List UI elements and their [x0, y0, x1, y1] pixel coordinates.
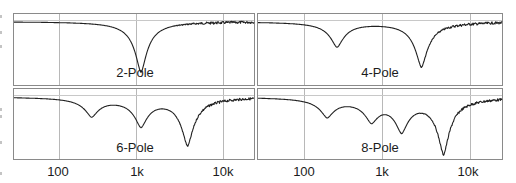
x-axis-ticks-left: 100 1k 10k [47, 164, 234, 179]
x-tick-1k: 1k [130, 164, 144, 179]
x-axis-ticks-right: 100 1k 10k [293, 164, 479, 179]
phaser-response-chart: 2-Pole 4-Pole 6-Pole 8-Pole 100 1k 10k 1… [0, 0, 516, 183]
cropped-axis-fragments [0, 15, 2, 175]
x-tick-100: 100 [293, 164, 315, 179]
panel-label-4-pole: 4-Pole [361, 65, 399, 80]
x-tick-1k: 1k [375, 164, 389, 179]
panel-label-8-pole: 8-Pole [361, 140, 399, 155]
x-tick-10k: 10k [458, 164, 479, 179]
x-tick-100: 100 [47, 164, 69, 179]
panel-label-6-pole: 6-Pole [116, 140, 154, 155]
x-tick-10k: 10k [213, 164, 234, 179]
panel-label-2-pole: 2-Pole [116, 65, 154, 80]
